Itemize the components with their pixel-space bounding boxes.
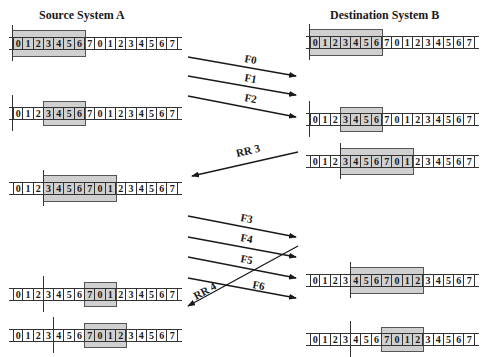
message-rr-3: RR 3 [192,142,298,176]
arrow-label: F2 [244,91,259,105]
arrow-label: RR 3 [235,142,262,159]
message-f2: F2 [188,91,296,117]
arrow-label: F0 [244,52,259,66]
arrow-line [188,76,296,95]
arrow-label: F3 [240,211,255,225]
arrow-line [188,57,296,76]
message-f1: F1 [188,71,296,95]
arrow-label: F5 [240,252,255,266]
arrow-label: F4 [240,231,255,245]
message-f0: F0 [188,52,296,76]
arrow-label: F6 [252,278,267,292]
arrow-line [188,96,296,117]
arrow-label: F1 [244,71,258,85]
